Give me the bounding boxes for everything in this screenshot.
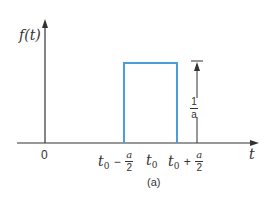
tick-right-num: a [196,150,202,160]
tick-right-op: + [184,155,191,169]
height-label: 1a [190,97,198,120]
origin-label: 0 [41,149,48,161]
height-den: a [191,110,197,120]
pulse-line [124,63,177,143]
tick-right-den: 2 [197,163,203,173]
tick-right-label: t0 + a2 [168,150,203,173]
x-axis-label: t [249,147,255,161]
tick-left-op: − [114,155,121,169]
tick-left-label: t0 − a2 [98,150,133,173]
y-axis-label: f(t) [19,28,41,42]
tick-left-sub: 0 [104,161,110,171]
tick-left-num: a [126,150,132,160]
tick-left-den: 2 [127,163,133,173]
rectangular-pulse-figure: f(t) t 0 1a t0 − a2 t0 t0 + a2 (a) [0,0,273,197]
figure-caption: (a) [147,176,160,188]
tick-center-label: t0 [146,153,157,170]
tick-center-sub: 0 [152,160,158,170]
dimension-arrow-icon [194,62,200,71]
height-num: 1 [191,97,197,107]
tick-right-sub: 0 [174,161,180,171]
y-axis-arrow-icon [42,19,48,28]
